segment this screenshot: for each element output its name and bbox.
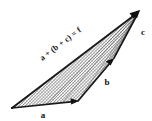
origin-vertex: [11, 107, 13, 109]
vector-diagram-canvas: a b c a + (b + c) = f: [0, 0, 152, 121]
vector-b-label: b: [104, 77, 109, 87]
resultant-label: a + (b + c) = f: [38, 25, 83, 62]
vector-diagram-figure: a b c a + (b + c) = f: [0, 0, 152, 121]
interior-construction-rays: [46, 11, 139, 105]
vector-a-label: a: [41, 110, 46, 120]
vector-c-label: c: [141, 27, 145, 37]
